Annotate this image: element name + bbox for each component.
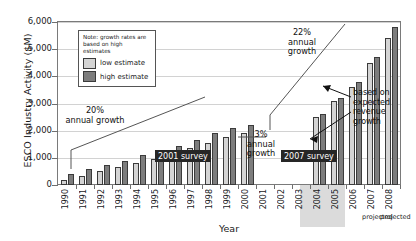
x-tick-2008 [400, 185, 401, 189]
x-tick-2006 [364, 185, 365, 189]
annotation-growth-20: 20% annual growth [60, 106, 130, 125]
legend-swatch-low-icon [83, 58, 96, 69]
legend-label-high: high estimate [100, 73, 148, 81]
x-tick-label-2008: 2008 [386, 189, 396, 209]
annotation-expected-l4: growth [353, 117, 411, 127]
legend-note: Note: growth rates are based on high est… [83, 34, 151, 55]
annotation-expected-l1: based on [353, 88, 411, 98]
annotation-growth-3-sub2: growth [243, 149, 279, 159]
bar-1992-high-estimate [104, 165, 111, 185]
x-tick-2007 [382, 185, 383, 189]
x-tick-label-1997: 1997 [188, 189, 198, 209]
bar-1994-low-estimate [133, 163, 140, 185]
x-tick-1990 [76, 185, 77, 189]
y-axis-title: ESCO Industry Activity ($M) [22, 16, 33, 186]
x-tick-label-2000: 2000 [242, 189, 252, 209]
y-tick-0 [52, 185, 58, 186]
x-tick-label-1999: 1999 [224, 189, 234, 209]
bar-1991-high-estimate [86, 169, 93, 185]
bar-1999-low-estimate [223, 137, 230, 185]
annotation-expected-revenue: based on expected revenue growth [353, 88, 411, 126]
bar-group-2000 [238, 22, 256, 185]
annotation-growth-22-sub2: growth [281, 47, 323, 57]
x-tick-label-1991: 1991 [80, 189, 90, 209]
bar-2005-low-estimate [331, 101, 338, 185]
bar-group-2001 [256, 22, 274, 185]
bar-1990-low-estimate [61, 180, 68, 185]
x-tick-1998 [220, 185, 221, 189]
annotation-expected-l2: expected [353, 98, 411, 108]
esco-industry-activity-chart: 6,0005,0004,0003,0002,0001,0000 ESCO Ind… [0, 0, 416, 241]
x-tick-1993 [130, 185, 131, 189]
x-tick-1994 [148, 185, 149, 189]
x-tick-2000 [256, 185, 257, 189]
x-tick-1995 [166, 185, 167, 189]
bar-1992-low-estimate [97, 171, 104, 185]
x-tick-1996 [184, 185, 185, 189]
legend-item-low: low estimate [83, 58, 151, 69]
x-tick-2003 [310, 185, 311, 189]
x-tick-label-2001: 2001 [260, 189, 270, 209]
bar-group-1990 [58, 22, 76, 185]
annotation-growth-3: 3% annual growth [243, 130, 279, 159]
annotation-expected-l3: revenue [353, 107, 411, 117]
x-tick-1992 [112, 185, 113, 189]
bar-1993-low-estimate [115, 167, 122, 185]
projected-label-2008: projected [380, 214, 411, 221]
legend-swatch-high-icon [83, 71, 96, 82]
x-tick-label-2005: 2005 [332, 189, 342, 209]
bar-1995-low-estimate [151, 159, 158, 185]
legend: Note: growth rates are based on high est… [78, 30, 156, 87]
legend-item-high: high estimate [83, 71, 151, 82]
survey-label-2001: 2001 survey [155, 150, 211, 162]
x-tick-2004 [328, 185, 329, 189]
survey-label-2007: 2007 survey [281, 150, 337, 162]
bar-1998-high-estimate [212, 133, 219, 185]
x-tick-1999 [238, 185, 239, 189]
x-tick-label-1998: 1998 [206, 189, 216, 209]
x-tick-1991 [94, 185, 95, 189]
bar-1991-low-estimate [79, 176, 86, 186]
x-tick-label-1990: 1990 [62, 189, 72, 209]
x-tick-label-1996: 1996 [170, 189, 180, 209]
x-tick-label-2003: 2003 [296, 189, 306, 209]
x-tick-label-1995: 1995 [152, 189, 162, 209]
x-tick-label-1994: 1994 [134, 189, 144, 209]
bar-1993-high-estimate [122, 161, 129, 185]
x-tick-label-2002: 2002 [278, 189, 288, 209]
bar-1994-high-estimate [140, 155, 147, 185]
bar-1990-high-estimate [68, 174, 75, 185]
x-tick-label-2006: 2006 [350, 189, 360, 209]
bar-1997-high-estimate [194, 140, 201, 185]
x-tick-2001 [274, 185, 275, 189]
bar-1999-high-estimate [230, 128, 237, 185]
x-tick-2002 [292, 185, 293, 189]
x-tick-label-1992: 1992 [98, 189, 108, 209]
annotation-growth-22: 22% annual growth [281, 28, 323, 57]
x-tick-2005 [346, 185, 347, 189]
x-tick-label-1993: 1993 [116, 189, 126, 209]
bar-2005-high-estimate [338, 98, 345, 185]
legend-label-low: low estimate [100, 59, 145, 67]
x-tick-1997 [202, 185, 203, 189]
x-tick-label-2004: 2004 [314, 189, 324, 209]
x-axis-title: Year [57, 223, 401, 234]
bar-group-1999 [220, 22, 238, 185]
x-tick-label-2007: 2007 [368, 189, 378, 209]
annotation-growth-20-sub: annual growth [60, 116, 130, 126]
